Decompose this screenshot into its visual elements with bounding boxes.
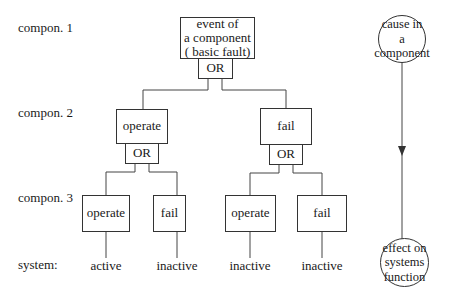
compon2-operate-or-gate: OR <box>125 143 159 164</box>
compon3-operate-box-1: operate <box>82 195 130 232</box>
compon2-operate-box: operate <box>116 109 168 144</box>
cause-circle: cause in a component <box>378 15 426 63</box>
cause-line1: cause in a <box>379 17 425 46</box>
compon3-fail-box-1: fail <box>153 195 186 232</box>
arrowhead-icon <box>398 146 406 156</box>
system-outcome-2: inactive <box>147 259 207 272</box>
system-outcome-3: inactive <box>220 259 280 272</box>
row-label-compon2: compon. 2 <box>18 106 73 119</box>
effect-line3: function <box>384 270 426 284</box>
row-label-compon3: compon. 3 <box>18 191 73 204</box>
compon2-fail-box: fail <box>260 108 312 145</box>
cause-line2: component <box>374 46 430 60</box>
root-event-line2: a component <box>184 31 251 45</box>
root-or-gate: OR <box>198 58 233 79</box>
row-label-system: system: <box>18 258 58 271</box>
effect-line1: effect on <box>383 241 427 255</box>
root-event-line1: event of <box>196 17 238 31</box>
effect-line2: systems <box>385 255 425 269</box>
system-outcome-1: active <box>76 259 136 272</box>
compon2-fail-or-gate: OR <box>269 144 303 165</box>
effect-circle: effect on systems function <box>380 238 429 287</box>
compon3-operate-box-2: operate <box>225 195 276 232</box>
root-event-box: event of a component ( basic fault) <box>180 17 255 59</box>
row-label-compon1: compon. 1 <box>18 21 73 34</box>
compon3-fail-box-2: fail <box>297 195 347 232</box>
system-outcome-4: inactive <box>292 259 352 272</box>
